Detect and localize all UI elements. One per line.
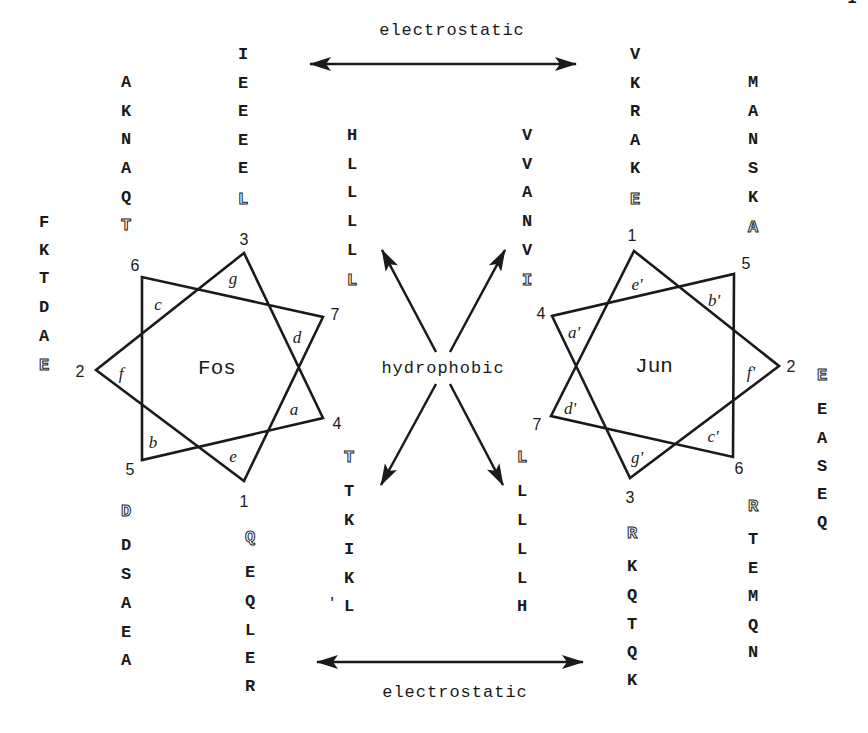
residue: E (245, 564, 255, 581)
residue: E (245, 650, 255, 667)
jun-position-c: c' (707, 428, 718, 445)
residue-highlighted: L (238, 191, 248, 208)
residue: K (39, 242, 49, 259)
residue: L (347, 242, 357, 259)
residue: L (245, 622, 255, 639)
residue: S (817, 458, 827, 475)
residue: Q (245, 593, 255, 610)
residue: E (748, 560, 758, 577)
residue: S (121, 566, 131, 583)
residue: N (748, 644, 758, 661)
residue-highlighted: R (627, 525, 637, 542)
residue: E (238, 103, 248, 120)
residue: Q (627, 587, 637, 604)
electrostatic-label-top: electrostatic (379, 22, 525, 39)
residue-highlighted: E (39, 357, 49, 374)
residue: E (238, 160, 248, 177)
residue: T (344, 483, 354, 500)
page-mark: 1 (848, 0, 857, 6)
residue: A (817, 430, 827, 447)
residue: A (121, 74, 131, 91)
residue: M (748, 588, 758, 605)
residue: H (517, 598, 527, 615)
stray-mark: ' (328, 597, 335, 609)
residue: A (121, 160, 131, 177)
residue: R (630, 103, 640, 120)
residue: D (121, 537, 131, 554)
residue: N (121, 131, 131, 148)
residue: T (39, 270, 49, 287)
hydrophobic-label: hydrophobic (381, 360, 504, 377)
residue: L (347, 184, 357, 201)
jun-title: Jun (635, 356, 673, 377)
residue-highlighted: T (344, 449, 354, 466)
jun-position-f: f' (747, 364, 755, 381)
residue: K (627, 672, 637, 689)
residue: V (522, 156, 532, 173)
fos-vertex-4: 4 (333, 416, 342, 432)
residue: E (238, 132, 248, 149)
residue: L (517, 570, 527, 587)
residue: Q (121, 189, 131, 206)
residue: N (748, 131, 758, 148)
electrostatic-label-bottom: electrostatic (382, 684, 528, 701)
residue: E (817, 486, 827, 503)
fos-position-f: f (119, 365, 124, 382)
residue: K (630, 75, 640, 92)
residue: K (630, 160, 640, 177)
residue: Q (748, 617, 758, 634)
hydrophobic-arrow-down-left (381, 384, 436, 485)
jun-position-a: a' (568, 324, 580, 341)
residue: K (748, 189, 758, 206)
jun-vertex-3: 3 (626, 490, 635, 506)
fos-vertex-1: 1 (240, 494, 249, 510)
residue: L (347, 156, 357, 173)
jun-position-b: b' (708, 292, 720, 309)
residue: A (39, 328, 49, 345)
fos-vertex-2: 2 (76, 364, 85, 380)
residue-highlighted: D (121, 503, 131, 520)
residue-highlighted: E (630, 191, 640, 208)
residue: K (344, 512, 354, 529)
hydrophobic-arrow-up-right (450, 250, 505, 352)
residue: L (344, 598, 354, 615)
residue-highlighted: I (522, 272, 532, 289)
fos-vertex-3: 3 (240, 232, 249, 248)
residue: S (748, 160, 758, 177)
residue: A (748, 103, 758, 120)
residue: K (121, 103, 131, 120)
jun-position-d: d' (564, 400, 576, 417)
jun-vertex-1: 1 (628, 228, 637, 244)
residue: L (347, 213, 357, 230)
jun-position-g: g' (631, 449, 643, 466)
residue: E (121, 624, 131, 641)
residue: A (121, 652, 131, 669)
fos-vertex-7: 7 (331, 307, 340, 323)
fos-vertex-6: 6 (131, 258, 140, 274)
fos-position-d: d (293, 329, 302, 346)
residue: L (517, 483, 527, 500)
residue-highlighted: A (748, 219, 758, 236)
residue: L (517, 541, 527, 558)
residue: L (517, 512, 527, 529)
fos-position-g: g (229, 270, 238, 287)
residue: A (121, 595, 131, 612)
residue: A (630, 132, 640, 149)
jun-vertex-4: 4 (537, 306, 546, 322)
jun-vertex-6: 6 (735, 461, 744, 477)
residue: K (344, 570, 354, 587)
fos-position-c: c (154, 296, 162, 313)
fos-title: Fos (198, 358, 236, 379)
residue: T (748, 531, 758, 548)
residue-highlighted: L (347, 272, 357, 289)
jun-vertex-2: 2 (787, 359, 796, 375)
residue: F (39, 214, 49, 231)
residue: V (630, 46, 640, 63)
residue: K (627, 558, 637, 575)
fos-vertex-5: 5 (126, 462, 135, 478)
residue-highlighted: Q (245, 529, 255, 546)
residue-highlighted: L (517, 449, 527, 466)
residue: D (39, 299, 49, 316)
residue-highlighted: T (121, 217, 131, 234)
residue: R (245, 678, 255, 695)
